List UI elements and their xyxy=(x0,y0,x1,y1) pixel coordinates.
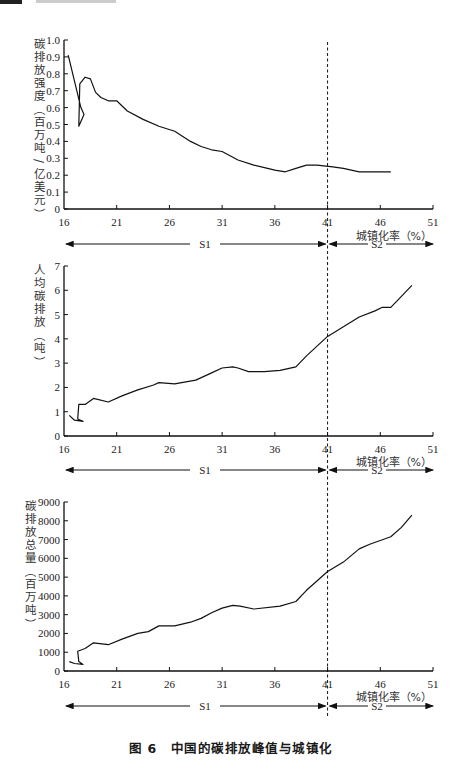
x-tick-label: 31 xyxy=(217,216,228,228)
x-tick-label: 46 xyxy=(375,216,387,228)
y-tick-label: 1.0 xyxy=(46,34,60,46)
x-tick-label: 51 xyxy=(428,216,439,228)
y-tick-label: 0.6 xyxy=(46,102,60,114)
s1-label: S1 xyxy=(199,464,211,476)
y-axis-title-char: 吨 xyxy=(25,603,37,617)
x-tick-label: 51 xyxy=(428,443,439,455)
y-axis-title-char: ） xyxy=(23,618,37,629)
y-axis-title-char: （ xyxy=(23,566,37,577)
y-axis-title-char: 碳 xyxy=(34,37,46,51)
y-tick-label: 7 xyxy=(55,260,61,272)
x-tick-label: 36 xyxy=(269,216,281,228)
y-axis-title-char: 放 xyxy=(34,315,46,329)
y-axis-title-char: 总 xyxy=(25,538,37,552)
y-axis-title-char: 百 xyxy=(25,577,36,591)
y-axis-title-char: 人 xyxy=(34,263,46,277)
y-axis-title-char: 放 xyxy=(25,525,37,539)
y-tick-label: 9000 xyxy=(38,496,61,508)
y-axis-title-char: 百 xyxy=(34,115,45,129)
x-tick-label: 36 xyxy=(269,443,281,455)
x-tick-label: 36 xyxy=(269,678,281,690)
figure-caption: 图 6中国的碳排放峰值与城镇化 xyxy=(0,738,462,757)
x-axis-title: 城镇化率（%） xyxy=(356,690,432,704)
y-tick-label: 0.1 xyxy=(46,186,60,198)
x-tick-label: 46 xyxy=(375,678,387,690)
x-tick-label: 21 xyxy=(111,443,122,455)
caption-number: 图 6 xyxy=(129,741,157,756)
y-axis-title-char: 吨 xyxy=(34,141,46,155)
y-axis-title-char: 度 xyxy=(34,89,46,103)
y-axis-title-char: 排 xyxy=(34,50,46,64)
y-tick-label: 2 xyxy=(55,381,61,393)
x-tick-label: 16 xyxy=(59,443,71,455)
y-axis-title-char: 碳 xyxy=(25,499,37,513)
x-tick-label: 26 xyxy=(164,216,176,228)
s1-label: S1 xyxy=(199,238,211,250)
s2-label: S2 xyxy=(371,464,383,476)
y-axis-title-char: 碳 xyxy=(34,289,46,303)
x-axis-title: 城镇化率（%） xyxy=(356,455,432,469)
y-axis-title-char: / xyxy=(32,159,46,163)
x-tick-label: 31 xyxy=(217,678,228,690)
y-tick-label: 7000 xyxy=(38,534,61,546)
y-tick-label: 8000 xyxy=(38,515,61,527)
x-tick-label: 21 xyxy=(111,678,122,690)
y-axis-title-char: 万 xyxy=(25,590,36,604)
y-tick-label: 0.3 xyxy=(46,152,60,164)
y-tick-label: 0 xyxy=(55,430,61,442)
x-tick-label: 16 xyxy=(59,216,71,228)
y-tick-label: 5 xyxy=(55,309,61,321)
figure-canvas: 00.10.20.30.40.50.60.70.80.91.0162126313… xyxy=(0,0,462,766)
y-tick-label: 0.8 xyxy=(46,68,60,80)
y-axis-title-char: 强 xyxy=(34,76,46,90)
x-tick-label: 16 xyxy=(59,678,71,690)
data-series-line xyxy=(69,285,412,421)
y-axis-title-char: ） xyxy=(32,208,46,219)
s2-label: S2 xyxy=(371,238,383,250)
y-tick-label: 6 xyxy=(55,284,61,296)
y-tick-label: 1000 xyxy=(38,646,61,658)
y-axis-title-char: 放 xyxy=(34,63,46,77)
y-axis-title-char: （ xyxy=(32,330,46,341)
y-tick-label: 0.9 xyxy=(46,51,60,63)
y-axis-title-char: 美 xyxy=(34,180,46,194)
x-tick-label: 21 xyxy=(111,216,122,228)
x-tick-label: 46 xyxy=(375,443,387,455)
y-tick-label: 3 xyxy=(55,357,61,369)
s2-label: S2 xyxy=(371,700,383,712)
x-axis-title: 城镇化率（%） xyxy=(356,229,432,243)
y-tick-label: 0.5 xyxy=(46,119,60,131)
y-axis-title-char: 亿 xyxy=(34,167,45,181)
y-axis-title-char: 均 xyxy=(34,276,45,290)
y-tick-label: 1 xyxy=(55,406,61,418)
y-axis-title-char: 排 xyxy=(34,302,46,316)
x-tick-label: 26 xyxy=(164,443,176,455)
y-tick-label: 0.7 xyxy=(46,85,60,97)
data-series-line xyxy=(68,55,391,172)
y-axis-title-char: 万 xyxy=(34,128,45,142)
y-tick-label: 2000 xyxy=(38,627,61,639)
y-axis-title-char: （ xyxy=(32,104,46,115)
s1-label: S1 xyxy=(199,700,211,712)
y-tick-label: 5000 xyxy=(38,571,61,583)
x-tick-label: 51 xyxy=(428,678,439,690)
data-series-line xyxy=(69,515,412,664)
y-tick-label: 0 xyxy=(55,665,61,677)
y-tick-label: 4 xyxy=(55,333,61,345)
caption-text: 中国的碳排放峰值与城镇化 xyxy=(171,741,333,756)
y-axis-title-char: ） xyxy=(32,356,46,367)
y-tick-label: 3000 xyxy=(38,609,61,621)
y-tick-label: 4000 xyxy=(38,590,61,602)
y-axis-title-char: 元 xyxy=(34,193,46,207)
y-tick-label: 0 xyxy=(55,203,61,215)
x-tick-label: 26 xyxy=(164,678,176,690)
y-axis-title-char: 排 xyxy=(25,512,37,526)
y-tick-label: 0.2 xyxy=(46,169,60,181)
y-axis-title-char: 量 xyxy=(25,551,36,565)
y-tick-label: 0.4 xyxy=(46,135,60,147)
y-axis-title-char: 吨 xyxy=(34,341,46,355)
y-tick-label: 6000 xyxy=(38,552,61,564)
x-tick-label: 31 xyxy=(217,443,228,455)
